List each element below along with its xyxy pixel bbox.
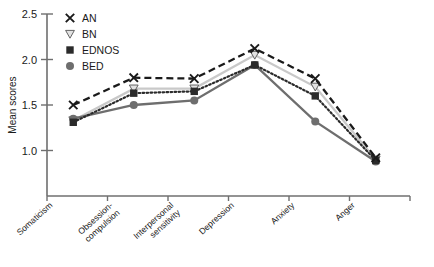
data-series-group bbox=[69, 44, 380, 165]
series-an bbox=[69, 44, 380, 162]
data-point-marker bbox=[66, 14, 74, 22]
y-axis-title-text: Mean scores bbox=[7, 76, 18, 133]
y-axis-tick-label: 1.0 bbox=[22, 145, 37, 157]
x-axis: SomaticismObsession-compulsionInterperso… bbox=[15, 196, 410, 248]
x-axis-tick-label: Anxiety bbox=[269, 200, 297, 227]
svg-text:Anger: Anger bbox=[333, 200, 357, 223]
data-point-marker bbox=[191, 88, 198, 95]
series-line bbox=[73, 65, 376, 161]
data-point-marker bbox=[311, 117, 319, 125]
svg-text:Somaticism: Somaticism bbox=[15, 200, 55, 237]
legend-item-bed[interactable]: BED bbox=[66, 60, 104, 72]
legend-item-ednos[interactable]: EDNOS bbox=[66, 44, 119, 56]
data-point-marker bbox=[66, 30, 75, 38]
series-bed bbox=[69, 61, 380, 165]
x-axis-tick-label: Somaticism bbox=[15, 200, 55, 237]
legend-item-label: BED bbox=[82, 60, 104, 72]
data-point-marker bbox=[312, 92, 319, 99]
chart-container: 1.01.52.02.5 SomaticismObsession-compuls… bbox=[0, 0, 434, 267]
data-point-marker bbox=[130, 101, 138, 109]
legend-item-an[interactable]: AN bbox=[66, 12, 97, 24]
series-line bbox=[73, 49, 376, 158]
data-point-marker bbox=[190, 96, 198, 104]
series-ednos bbox=[70, 61, 380, 164]
legend-item-bn[interactable]: BN bbox=[66, 28, 97, 40]
x-axis-tick-label: Obsession-compulsion bbox=[76, 200, 122, 244]
data-point-marker bbox=[311, 74, 319, 82]
y-axis: 1.01.52.02.5 bbox=[22, 8, 53, 196]
svg-text:Anxiety: Anxiety bbox=[269, 200, 297, 227]
data-point-marker bbox=[251, 61, 258, 68]
legend-item-label: BN bbox=[82, 28, 97, 40]
y-axis-tick-label: 1.5 bbox=[22, 99, 37, 111]
legend-item-label: AN bbox=[82, 12, 97, 24]
data-point-marker bbox=[66, 62, 74, 70]
y-axis-title: Mean scores bbox=[7, 76, 18, 133]
data-point-marker bbox=[70, 119, 77, 126]
y-axis-tick-label: 2.0 bbox=[22, 54, 37, 66]
legend-item-label: EDNOS bbox=[82, 44, 119, 56]
data-point-marker bbox=[69, 101, 77, 109]
chart-legend: ANBNEDNOSBED bbox=[66, 12, 120, 72]
series-bn bbox=[69, 51, 380, 163]
y-axis-tick-label: 2.5 bbox=[22, 8, 37, 20]
x-axis-tick-label: Anger bbox=[333, 200, 357, 223]
x-axis-tick-label: Interpersonalsensitivity bbox=[131, 200, 182, 249]
svg-text:Depression: Depression bbox=[197, 200, 236, 237]
x-axis-tick-label: Depression bbox=[197, 200, 236, 237]
data-point-marker bbox=[130, 89, 137, 96]
mean-scores-line-chart: 1.01.52.02.5 SomaticismObsession-compuls… bbox=[0, 0, 434, 267]
data-point-marker bbox=[66, 46, 73, 53]
